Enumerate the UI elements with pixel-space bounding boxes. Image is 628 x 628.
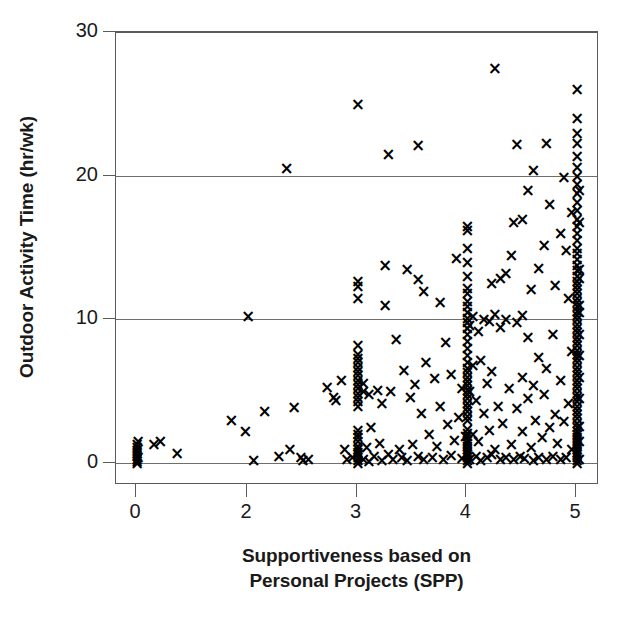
- y-tick-label-20: 20: [28, 164, 98, 184]
- x-tick-label-0: 0: [115, 501, 155, 521]
- y-tick-30: [103, 31, 115, 32]
- gridline-y-0: [116, 463, 597, 464]
- y-axis-title: Outdoor Activity Time (hr/wk): [10, 12, 44, 482]
- x-axis-title: Supportiveness based on Personal Project…: [115, 543, 598, 593]
- x-tick-label-3: 3: [336, 501, 376, 521]
- x-tick-0: [135, 484, 136, 497]
- plot-area: [115, 31, 598, 484]
- x-axis-title-line2: Personal Projects (SPP): [115, 568, 598, 593]
- x-tick-5: [575, 484, 576, 497]
- x-tick-2: [246, 484, 247, 497]
- y-tick-label-10: 10: [28, 307, 98, 327]
- y-tick-20: [103, 175, 115, 176]
- x-tick-label-2: 2: [226, 501, 266, 521]
- gridline-y-20: [116, 176, 597, 177]
- gridline-y-30: [116, 32, 597, 33]
- x-tick-4: [465, 484, 466, 497]
- scatter-plot-figure: Outdoor Activity Time (hr/wk) 0102030 02…: [0, 0, 628, 628]
- y-tick-label-0: 0: [28, 451, 98, 471]
- x-tick-label-4: 4: [445, 501, 485, 521]
- y-tick-label-30: 30: [28, 20, 98, 40]
- x-axis-title-line1: Supportiveness based on: [242, 545, 471, 566]
- y-tick-0: [103, 462, 115, 463]
- x-tick-label-5: 5: [555, 501, 595, 521]
- gridline-y-10: [116, 319, 597, 320]
- page-scan-edge: [0, 612, 628, 628]
- y-tick-10: [103, 318, 115, 319]
- x-tick-3: [356, 484, 357, 497]
